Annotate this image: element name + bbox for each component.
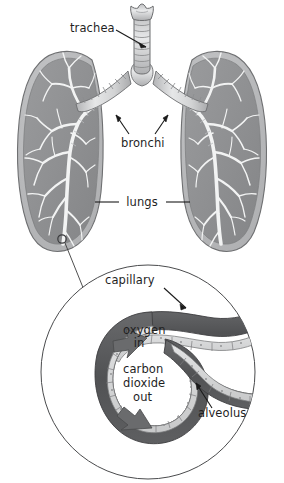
left-lung <box>18 51 104 251</box>
label-co2-out-line3: out <box>133 390 153 404</box>
label-lungs: lungs <box>126 195 158 209</box>
capillary-right-lining <box>243 294 277 326</box>
respiratory-system-diagram: trachea bronchi lungs <box>0 0 284 483</box>
label-co2-out-line2: dioxide <box>123 376 165 390</box>
magnifier-leader-line <box>65 243 84 290</box>
left-lung-body <box>23 58 98 244</box>
figure-root: trachea bronchi lungs <box>0 0 284 483</box>
label-oxygen-in-line1: oxygen <box>123 323 166 337</box>
label-co2-out-line1: carbon <box>123 362 163 376</box>
capillary-right-branch <box>243 294 277 326</box>
label-oxygen-in-line2: in <box>134 336 145 350</box>
label-trachea: trachea <box>70 21 115 35</box>
right-lung-body <box>185 58 260 244</box>
label-capillary: capillary <box>105 273 155 287</box>
label-alveolus: alveolus <box>198 406 246 420</box>
magnifier-detail: capillary oxygen in carbon dioxide out a… <box>41 265 277 479</box>
label-bronchi: bronchi <box>121 136 165 150</box>
right-lung <box>181 51 267 251</box>
